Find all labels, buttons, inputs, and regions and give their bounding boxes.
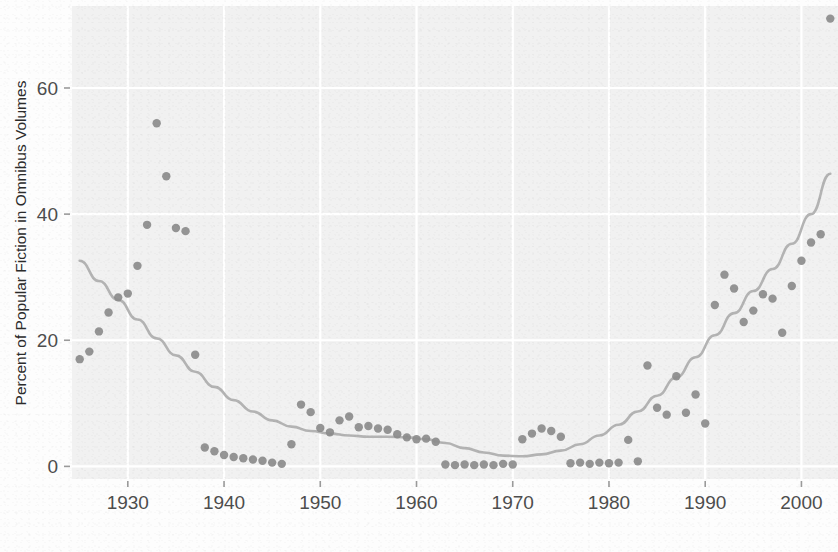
data-point [432,438,440,446]
data-point [489,461,497,469]
data-point [114,293,122,301]
data-point [403,433,411,441]
data-point [768,294,776,302]
y-axis-title: Percent of Popular Fiction in Omnibus Vo… [12,80,29,405]
data-point [701,419,709,427]
y-tick-label: 60 [37,78,58,99]
data-point [201,443,209,451]
data-point [576,458,584,466]
data-point [393,430,401,438]
data-point [739,318,747,326]
data-point [470,461,478,469]
data-point [210,447,218,455]
data-point [643,361,651,369]
data-point [229,453,237,461]
x-tick-label: 2000 [780,492,822,513]
data-point [268,458,276,466]
data-point [460,460,468,468]
data-point [422,434,430,442]
x-tick-label: 1960 [395,492,437,513]
x-tick-label: 1990 [684,492,726,513]
data-point [788,282,796,290]
data-point [374,424,382,432]
data-point [335,416,343,424]
data-point [152,119,160,127]
data-point [191,351,199,359]
data-point [797,257,805,265]
data-point [133,262,141,270]
data-point [720,270,728,278]
data-point [634,457,642,465]
y-tick-label: 20 [37,330,58,351]
chart-figure: 19301940195019601970198019902000 0204060… [0,0,838,552]
data-point [95,327,103,335]
data-point [451,461,459,469]
x-tick-label: 1950 [299,492,341,513]
data-point [162,172,170,180]
y-axis-tick-labels: 0204060 [37,78,58,477]
data-point [595,458,603,466]
x-axis-tick-labels: 19301940195019601970198019902000 [107,492,823,513]
data-point [653,404,661,412]
y-tick-label: 40 [37,204,58,225]
data-point [76,355,84,363]
data-point [104,308,112,316]
data-point [181,227,189,235]
data-point [566,459,574,467]
data-point [480,460,488,468]
data-point [509,460,517,468]
x-tick-label: 1980 [588,492,630,513]
data-point [258,457,266,465]
x-tick-label: 1940 [203,492,245,513]
data-point [759,290,767,298]
data-point [441,460,449,468]
data-point [172,224,180,232]
data-point [220,451,228,459]
x-tick-label: 1930 [107,492,149,513]
data-point [749,306,757,314]
data-point [624,436,632,444]
data-point [778,328,786,336]
data-point [691,390,699,398]
data-point [528,429,536,437]
data-point [278,460,286,468]
y-tick-label: 0 [47,456,58,477]
data-point [316,424,324,432]
x-tick-label: 1970 [492,492,534,513]
data-point [306,408,314,416]
data-point [614,458,622,466]
data-point [239,454,247,462]
data-point [816,230,824,238]
data-point [297,400,305,408]
plot-panel-background [72,6,838,479]
data-point [711,301,719,309]
data-point [412,435,420,443]
data-point [605,459,613,467]
data-point [682,409,690,417]
data-point [326,428,334,436]
data-point [355,423,363,431]
data-point [287,440,295,448]
data-point [557,433,565,441]
data-point [537,424,545,432]
data-point [85,347,93,355]
data-point [672,372,680,380]
data-point [249,455,257,463]
data-point [807,238,815,246]
data-point [547,427,555,435]
data-point [364,422,372,430]
data-point [383,426,391,434]
data-point [345,412,353,420]
data-point [826,14,834,22]
scatter-plot: 19301940195019601970198019902000 0204060… [0,0,838,552]
data-point [124,289,132,297]
data-point [143,221,151,229]
data-point [730,284,738,292]
data-point [586,460,594,468]
data-point [518,435,526,443]
data-point [499,460,507,468]
data-point [663,410,671,418]
